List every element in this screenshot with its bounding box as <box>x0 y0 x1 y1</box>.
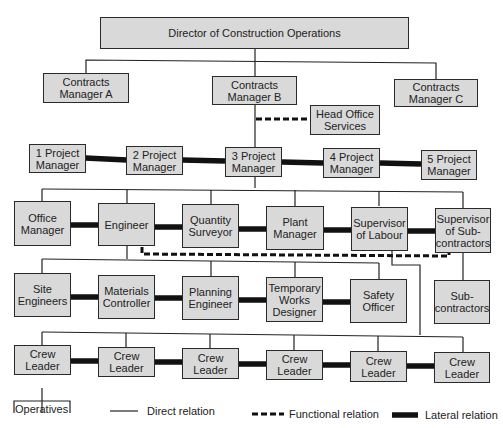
quantity-surveyor: Quantity Surveyor <box>182 204 239 248</box>
project-manager-2: 2 Project Manager <box>126 146 183 175</box>
crew-leader-5: Crew Leader <box>350 351 407 382</box>
contracts-manager-b: Contracts Manager B <box>212 76 297 105</box>
office-manager: Office Manager <box>14 201 71 246</box>
supervisor-of-subcontractors: Supervisor of Sub- contractors <box>435 208 491 253</box>
subcontractors: Sub- contractors <box>434 280 490 324</box>
contracts-manager-c: Contracts Manager C <box>394 79 478 107</box>
legend-functional-relation: Functional relation <box>289 408 379 420</box>
crew-leader-3: Crew Leader <box>182 348 239 379</box>
crew-leader-1: Crew Leader <box>14 345 71 375</box>
plant-manager: Plant Manager <box>266 206 324 250</box>
safety-officer: Safety Officer <box>350 279 407 323</box>
project-manager-5: 5 Project Manager <box>421 150 477 180</box>
materials-controller: Materials Controller <box>98 275 155 319</box>
project-manager-1: 1 Project Manager <box>29 144 86 173</box>
project-manager-4: 4 Project Manager <box>323 148 380 178</box>
director-box: Director of Construction Operations <box>100 17 409 49</box>
engineer: Engineer <box>98 203 155 246</box>
planning-engineer: Planning Engineer <box>182 276 239 320</box>
crew-leader-6: Crew Leader <box>434 352 490 383</box>
crew-leader-4: Crew Leader <box>266 350 323 380</box>
head-office-services: Head Office Services <box>310 105 380 135</box>
crew-leader-2: Crew Leader <box>98 347 155 377</box>
operatives-label: Operatives <box>15 403 68 415</box>
site-engineers: Site Engineers <box>14 273 71 317</box>
legend-direct-relation: Direct relation <box>147 405 215 417</box>
supervisor-of-labour: Supervisor of Labour <box>351 207 408 251</box>
temporary-works-designer: Temporary Works Designer <box>266 277 323 322</box>
contracts-manager-a: Contracts Manager A <box>43 73 129 103</box>
project-manager-3: 3 Project Manager <box>225 147 282 177</box>
connector-lines <box>0 0 503 428</box>
legend-lateral-relation: Lateral relation <box>425 409 498 421</box>
